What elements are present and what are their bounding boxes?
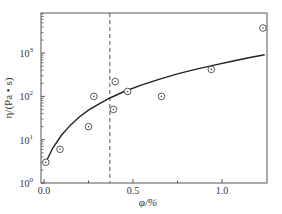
y-tick-label: 103	[20, 46, 34, 59]
data-point	[42, 159, 49, 166]
x-tick-label: 1.0	[216, 185, 229, 196]
data-point	[85, 123, 92, 130]
data-point	[110, 106, 117, 113]
data-point	[57, 146, 64, 153]
chart: 0.00.51.0100101102103 φ/% η/(Pa • s)	[0, 0, 282, 214]
fit-curve-path	[46, 55, 265, 163]
data-point	[112, 78, 119, 85]
chart-svg: 0.00.51.0100101102103 φ/% η/(Pa • s)	[0, 0, 282, 214]
y-tick-label: 101	[20, 133, 34, 146]
data-point	[158, 93, 165, 100]
data-point	[260, 25, 267, 32]
y-axis-label: η/(Pa • s)	[2, 77, 15, 118]
data-point	[124, 88, 131, 95]
y-tick-label: 102	[20, 89, 34, 102]
x-tick-label: 0.0	[38, 185, 51, 196]
fit-curve	[46, 55, 265, 163]
plot-frame	[41, 13, 267, 183]
data-point	[91, 93, 98, 100]
ticks: 0.00.51.0100101102103	[20, 14, 229, 196]
data-point	[208, 66, 215, 73]
axes	[41, 13, 267, 183]
x-axis-label: φ/%	[139, 196, 157, 208]
x-tick-label: 0.5	[127, 185, 140, 196]
y-tick-label: 100	[20, 176, 34, 189]
data-points	[42, 25, 266, 166]
